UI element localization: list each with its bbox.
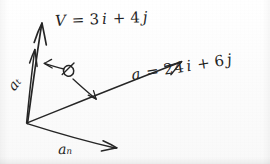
normal-acceleration-subscript: n [66,146,72,156]
angle-leader-left [44,59,64,69]
velocity-j-unit-vector: j [142,8,148,26]
acceleration-symbol: a [130,65,143,84]
velocity-j-coefficient: 4 [130,8,141,26]
velocity-vector-arrow [28,23,47,123]
acceleration-i-unit-vector: i [185,57,194,76]
velocity-equation-label: V=3i+4j [55,10,149,29]
velocity-plus-sign: + [112,9,126,28]
normal-acceleration-arrow [27,124,117,151]
velocity-i-unit-vector: i [102,10,109,28]
acceleration-plus-sign: + [196,54,212,74]
acceleration-equals: = [145,62,161,82]
acceleration-j-coefficient: 6 [213,51,226,70]
velocity-i-coefficient: 3 [89,10,100,28]
velocity-symbol: V [55,12,68,30]
acceleration-i-coefficient: 24 [162,58,186,79]
velocity-equals: = [71,11,85,30]
angle-symbol-glyph [62,63,74,76]
diagram-canvas: V=3i+4j a=24i+6j at an [0,0,270,164]
normal-acceleration-label: an [58,142,72,156]
angle-leader-right [73,79,96,99]
